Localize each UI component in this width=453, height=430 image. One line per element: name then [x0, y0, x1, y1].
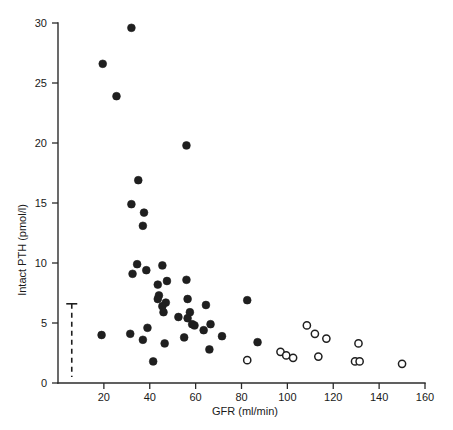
data-point-filled — [98, 331, 106, 339]
data-point-filled — [127, 200, 135, 208]
x-tick-label: 140 — [370, 391, 388, 403]
x-tick-label: 60 — [190, 391, 202, 403]
data-point-filled — [184, 295, 192, 303]
data-point-filled — [99, 60, 107, 68]
data-point-filled — [243, 296, 251, 304]
y-tick-label: 25 — [35, 77, 47, 89]
data-point-filled — [154, 281, 162, 289]
data-point-filled — [154, 295, 162, 303]
data-point-filled — [144, 324, 152, 332]
data-point-filled — [200, 326, 208, 334]
y-tick-label: 5 — [41, 317, 47, 329]
data-point-filled — [139, 222, 147, 230]
x-tick-label: 160 — [416, 391, 434, 403]
x-tick-label: 20 — [98, 391, 110, 403]
data-point-open — [244, 357, 251, 364]
data-point-filled — [149, 358, 157, 366]
data-point-filled — [191, 322, 199, 330]
data-point-open — [290, 354, 297, 361]
data-point-filled — [202, 301, 210, 309]
x-tick-label: 40 — [144, 391, 156, 403]
data-point-open — [323, 335, 330, 342]
data-point-filled — [126, 330, 134, 338]
series-open-circles — [244, 322, 406, 368]
data-point-filled — [163, 277, 171, 285]
y-tick-label: 30 — [35, 17, 47, 29]
data-point-filled — [207, 320, 215, 328]
data-point-filled — [254, 338, 262, 346]
plot-canvas: 051015202530 20406080100120140160 Intact… — [0, 0, 453, 430]
reference-range-bracket — [66, 304, 77, 377]
data-point-open — [355, 340, 362, 347]
data-point-filled — [218, 332, 226, 340]
data-point-filled — [160, 308, 168, 316]
data-point-open — [311, 330, 318, 337]
data-point-open — [315, 353, 322, 360]
data-point-open — [356, 358, 363, 365]
data-point-filled — [183, 142, 191, 150]
data-point-filled — [180, 334, 188, 342]
data-point-filled — [133, 260, 141, 268]
data-point-filled — [127, 24, 135, 32]
data-point-filled — [183, 276, 191, 284]
data-point-filled — [139, 336, 147, 344]
data-point-filled — [158, 262, 166, 270]
x-axis-ticks: 20406080100120140160 — [98, 383, 434, 403]
data-point-open — [398, 360, 405, 367]
x-tick-label: 100 — [278, 391, 296, 403]
y-axis-title: Intact PTH (pmol/l) — [16, 204, 28, 296]
data-point-open — [283, 352, 290, 359]
y-tick-label: 20 — [35, 137, 47, 149]
data-point-filled — [134, 176, 142, 184]
x-axis-title: GFR (ml/min) — [212, 405, 278, 417]
data-point-filled — [175, 313, 183, 321]
data-point-filled — [113, 92, 121, 100]
data-point-filled — [205, 346, 213, 354]
x-tick-label: 80 — [235, 391, 247, 403]
y-tick-label: 10 — [35, 257, 47, 269]
data-point-filled — [161, 340, 169, 348]
y-tick-label: 15 — [35, 197, 47, 209]
series-filled-circles — [98, 24, 262, 365]
scatter-plot-figure: 051015202530 20406080100120140160 Intact… — [0, 0, 453, 430]
data-point-open — [303, 322, 310, 329]
y-axis-ticks: 051015202530 — [35, 17, 58, 389]
y-tick-label: 0 — [41, 377, 47, 389]
data-point-filled — [140, 209, 148, 217]
data-point-filled — [142, 266, 150, 274]
x-tick-label: 120 — [324, 391, 342, 403]
data-point-filled — [129, 270, 137, 278]
